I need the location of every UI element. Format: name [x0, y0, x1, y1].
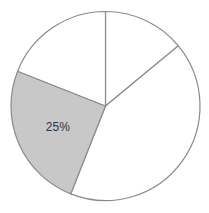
slice-label: 25% [46, 120, 70, 134]
pie-chart: 25% [0, 0, 209, 213]
